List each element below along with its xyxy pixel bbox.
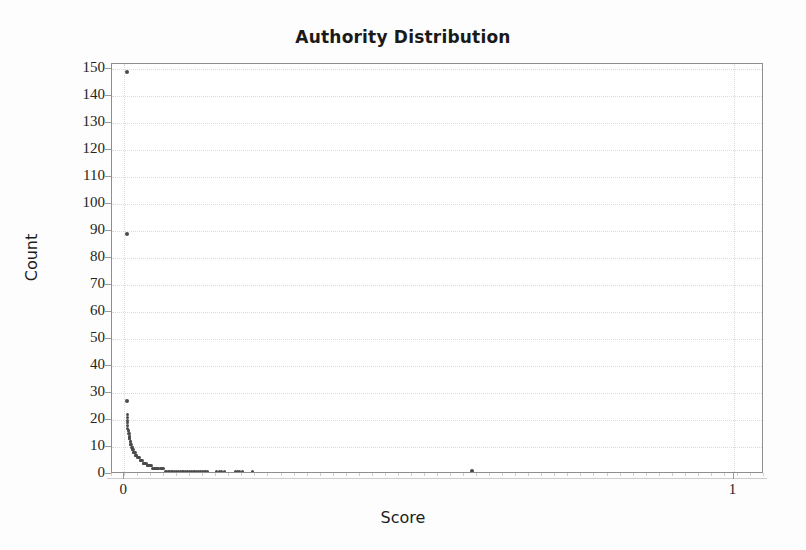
data-point [125, 70, 129, 74]
x-axis-minor-tick [150, 473, 151, 476]
x-axis-minor-tick [593, 473, 594, 476]
y-axis-tick-mark [105, 311, 111, 312]
gridline-horizontal [112, 231, 762, 232]
gridline-horizontal [112, 69, 762, 70]
data-point [251, 470, 254, 473]
axis-baseline-rule [107, 478, 767, 479]
y-axis-tick-label: 120 [59, 141, 105, 156]
y-axis-tick-mark [105, 122, 111, 123]
y-axis-tick-label: 130 [59, 114, 105, 129]
gridline-horizontal [112, 339, 762, 340]
y-axis-tick-mark [105, 419, 111, 420]
x-axis-minor-tick [620, 473, 621, 476]
x-axis-minor-tick [724, 473, 725, 476]
y-axis-tick-label: 150 [59, 60, 105, 75]
x-axis-minor-tick [672, 473, 673, 476]
gridline-horizontal [112, 123, 762, 124]
x-axis-minor-tick [372, 473, 373, 476]
chart-container: Authority Distribution Count Score 01020… [0, 0, 806, 550]
gridline-vertical [734, 64, 735, 472]
chart-title: Authority Distribution [0, 27, 806, 47]
x-axis-minor-tick [333, 473, 334, 476]
x-axis-minor-tick [215, 473, 216, 476]
gridline-horizontal [112, 420, 762, 421]
x-axis-minor-tick [111, 473, 112, 476]
x-axis-minor-tick [254, 473, 255, 476]
data-point [125, 399, 129, 403]
x-axis-minor-tick [528, 473, 529, 476]
y-axis-tick-label: 140 [59, 87, 105, 102]
y-axis-tick-label: 80 [59, 249, 105, 264]
x-axis-minor-tick [398, 473, 399, 476]
x-axis-minor-tick [307, 473, 308, 476]
x-axis-minor-tick [633, 473, 634, 476]
x-axis-minor-tick [241, 473, 242, 476]
y-axis-tick-label: 10 [59, 438, 105, 453]
gridline-horizontal [112, 447, 762, 448]
y-axis-tick-mark [105, 95, 111, 96]
gridline-horizontal [112, 393, 762, 394]
x-axis-minor-tick [424, 473, 425, 476]
y-axis-label: Count [22, 203, 41, 313]
x-axis-minor-tick [450, 473, 451, 476]
x-axis-tick-mark [123, 473, 124, 479]
y-axis-tick-label: 40 [59, 357, 105, 372]
y-axis-tick-label: 0 [59, 465, 105, 480]
data-point [470, 469, 474, 473]
plot-inner [112, 64, 762, 472]
y-axis-tick-label: 110 [59, 168, 105, 183]
x-axis-minor-tick [646, 473, 647, 476]
x-axis-minor-tick [580, 473, 581, 476]
x-axis-minor-tick [711, 473, 712, 476]
x-axis-minor-tick [489, 473, 490, 476]
x-axis-minor-tick [737, 473, 738, 476]
gridline-horizontal [112, 258, 762, 259]
x-axis-minor-tick [685, 473, 686, 476]
y-axis-tick-mark [105, 149, 111, 150]
y-axis-tick-mark [105, 284, 111, 285]
y-axis-tick-mark [105, 446, 111, 447]
data-point [223, 470, 226, 473]
gridline-horizontal [112, 96, 762, 97]
x-axis-minor-tick [502, 473, 503, 476]
data-point [125, 232, 129, 236]
y-axis-tick-mark [105, 68, 111, 69]
x-axis-minor-tick [659, 473, 660, 476]
x-axis-minor-tick [541, 473, 542, 476]
y-axis-tick-label: 50 [59, 330, 105, 345]
x-axis-minor-tick [607, 473, 608, 476]
x-axis-minor-tick [554, 473, 555, 476]
gridline-horizontal [112, 177, 762, 178]
y-axis-tick-mark [105, 230, 111, 231]
x-axis-minor-tick [346, 473, 347, 476]
gridline-horizontal [112, 150, 762, 151]
x-axis-minor-tick [750, 473, 751, 476]
y-axis-tick-label: 90 [59, 222, 105, 237]
y-axis-tick-label: 60 [59, 303, 105, 318]
y-axis-tick-mark [105, 365, 111, 366]
plot-area [111, 63, 763, 473]
x-axis-minor-tick [763, 473, 764, 476]
data-point [206, 470, 209, 473]
x-axis-minor-tick [385, 473, 386, 476]
y-axis-tick-mark [105, 392, 111, 393]
y-axis-tick-label: 20 [59, 411, 105, 426]
gridline-horizontal [112, 366, 762, 367]
x-axis-tick-label: 1 [713, 481, 753, 498]
y-axis-tick-mark [105, 257, 111, 258]
gridline-horizontal [112, 285, 762, 286]
x-axis-minor-tick [176, 473, 177, 476]
y-axis-tick-labels: 0102030405060708090100110120130140150 [55, 0, 105, 550]
x-axis-minor-tick [163, 473, 164, 476]
x-axis-minor-tick [189, 473, 190, 476]
y-axis-tick-mark [105, 338, 111, 339]
x-axis-minor-tick [281, 473, 282, 476]
x-axis-minor-tick [228, 473, 229, 476]
x-axis-minor-tick [463, 473, 464, 476]
x-axis-minor-tick [359, 473, 360, 476]
y-axis-tick-mark [105, 176, 111, 177]
x-axis-minor-tick [294, 473, 295, 476]
x-axis-minor-tick [476, 473, 477, 476]
gridline-horizontal [112, 312, 762, 313]
x-axis-minor-tick [567, 473, 568, 476]
